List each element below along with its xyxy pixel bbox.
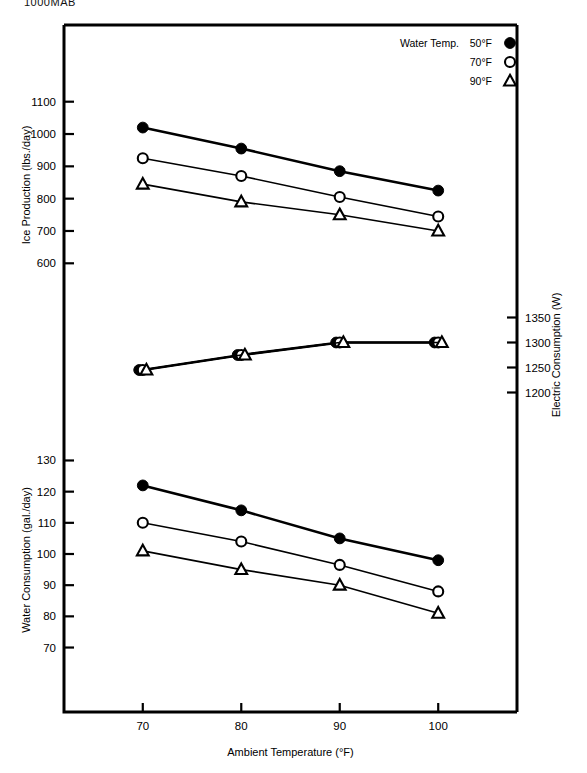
y-tick-label: 600 bbox=[37, 257, 56, 269]
legend-title: Water Temp. bbox=[400, 37, 459, 49]
data-point bbox=[138, 518, 148, 528]
data-point bbox=[236, 505, 247, 516]
series-line bbox=[143, 485, 438, 560]
data-point bbox=[334, 166, 345, 177]
data-point bbox=[433, 586, 443, 596]
y-tick-label: 110 bbox=[38, 517, 56, 529]
legend-label: 70°F bbox=[470, 56, 492, 68]
y-tick-label: 1250 bbox=[525, 362, 551, 374]
series-line bbox=[143, 523, 438, 592]
y-tick-label: 1350 bbox=[525, 312, 551, 324]
data-point bbox=[335, 560, 345, 570]
y-tick-label: 1200 bbox=[525, 387, 551, 399]
y-axis-label: Electric Consumption (W) bbox=[550, 293, 562, 418]
y-tick-label: 100 bbox=[37, 548, 56, 560]
legend-label: 50°F bbox=[470, 37, 492, 49]
data-point bbox=[138, 153, 148, 163]
y-tick-label: 120 bbox=[37, 486, 56, 498]
y-tick-label: 900 bbox=[37, 160, 56, 172]
data-point bbox=[432, 607, 444, 618]
series-line bbox=[143, 343, 438, 371]
chart-page: 1000MAB 708090100Ambient Temperature (°F… bbox=[0, 0, 587, 773]
data-point bbox=[236, 537, 246, 547]
x-tick-label: 70 bbox=[136, 720, 149, 732]
y-tick-label: 80 bbox=[43, 610, 56, 622]
y-tick-label: 90 bbox=[43, 579, 56, 591]
triple-panel-line-chart: 708090100Ambient Temperature (°F)6007008… bbox=[0, 0, 587, 773]
data-point bbox=[235, 196, 247, 207]
data-point bbox=[235, 563, 247, 574]
legend-label: 90°F bbox=[470, 75, 492, 87]
y-axis-label: Water Consumption (gal./day) bbox=[20, 487, 32, 633]
data-point bbox=[334, 209, 346, 220]
series-electric-consumption-2 bbox=[140, 336, 447, 374]
y-tick-label: 130 bbox=[37, 454, 56, 466]
x-tick-label: 100 bbox=[429, 720, 448, 732]
data-point bbox=[433, 555, 444, 566]
x-axis-label: Ambient Temperature (°F) bbox=[227, 746, 353, 758]
legend-marker-open-circle bbox=[505, 57, 515, 67]
data-point bbox=[334, 579, 346, 590]
y-tick-label: 1300 bbox=[525, 337, 551, 349]
y-axis-label: Ice Production (lbs./day) bbox=[20, 126, 32, 245]
data-point bbox=[236, 171, 246, 181]
y-tick-label: 1100 bbox=[31, 96, 56, 108]
data-point bbox=[334, 533, 345, 544]
data-point bbox=[137, 122, 148, 133]
legend: Water Temp.50°F70°F90°F bbox=[400, 37, 516, 87]
series-line bbox=[143, 343, 438, 371]
plot-frame bbox=[64, 25, 517, 712]
y-tick-label: 1000 bbox=[30, 128, 56, 140]
data-point bbox=[433, 211, 443, 221]
series-line bbox=[143, 343, 438, 371]
series-water-consumption-1 bbox=[138, 518, 443, 597]
y-tick-label: 700 bbox=[37, 225, 56, 237]
legend-marker-filled-circle bbox=[505, 38, 516, 49]
y-tick-label: 70 bbox=[43, 642, 56, 654]
series-line bbox=[143, 551, 438, 613]
x-tick-label: 80 bbox=[235, 720, 248, 732]
series-ice-production-1 bbox=[138, 153, 443, 221]
data-point bbox=[335, 192, 345, 202]
data-point bbox=[432, 225, 444, 236]
data-point bbox=[137, 178, 149, 189]
data-point bbox=[236, 143, 247, 154]
data-point bbox=[433, 185, 444, 196]
data-point bbox=[137, 545, 149, 556]
x-tick-label: 90 bbox=[333, 720, 346, 732]
series-ice-production-0 bbox=[137, 122, 443, 196]
data-point bbox=[137, 480, 148, 491]
series-line bbox=[143, 128, 438, 191]
y-tick-label: 800 bbox=[37, 193, 56, 205]
legend-marker-open-triangle bbox=[504, 75, 516, 86]
